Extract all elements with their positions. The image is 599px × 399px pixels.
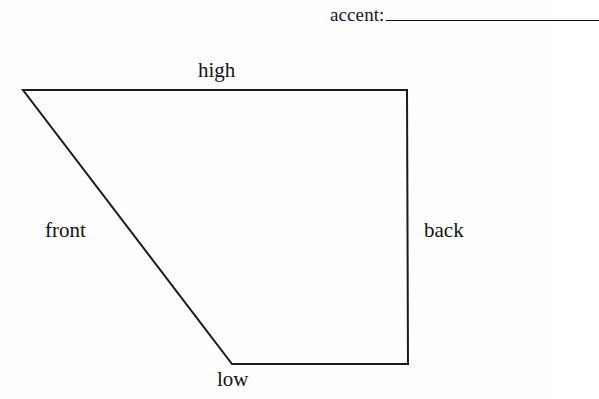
edge-label-low: low: [217, 366, 249, 392]
edge-label-high: high: [198, 57, 235, 83]
edge-label-front: front: [45, 217, 86, 243]
edge-label-back: back: [424, 217, 464, 243]
